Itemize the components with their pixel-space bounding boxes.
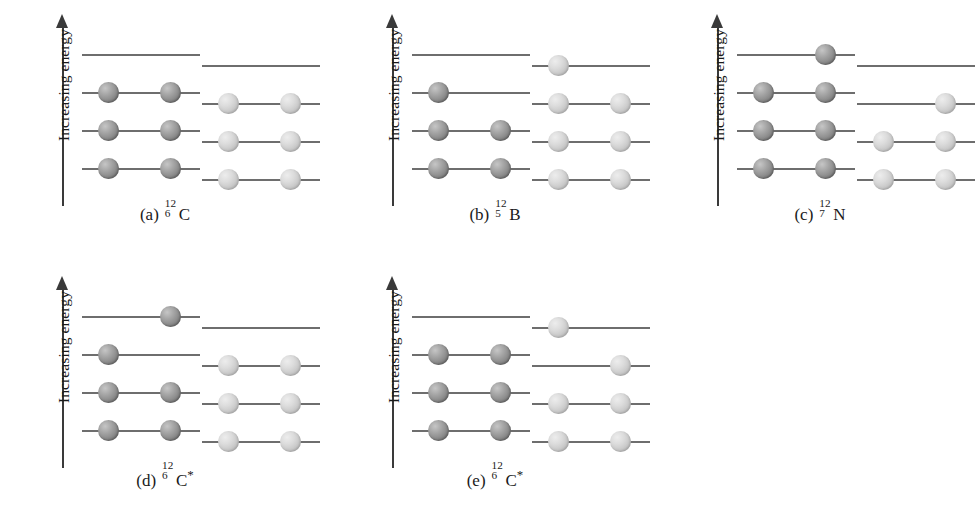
proton-sphere <box>218 393 239 414</box>
proton-sphere <box>610 393 631 414</box>
neutron-sphere <box>98 420 119 441</box>
excited-state-asterisk: * <box>187 467 193 482</box>
proton-sphere <box>280 93 301 114</box>
energy-level-line <box>412 54 530 56</box>
panel-tag: (d) <box>136 471 156 490</box>
proton-level-column <box>532 262 652 462</box>
neutron-sphere <box>428 158 449 179</box>
energy-axis: Increasing energy <box>374 276 400 468</box>
energy-level-line <box>82 54 200 56</box>
neutron-level-column <box>82 0 202 200</box>
axis-label: Increasing energy <box>55 5 73 165</box>
proton-sphere <box>935 93 956 114</box>
element-symbol: C <box>506 471 517 490</box>
proton-sphere <box>548 169 569 190</box>
isotope-notation: 126C <box>165 205 190 225</box>
energy-level-line <box>82 316 200 318</box>
energy-level-line <box>412 316 530 318</box>
proton-sphere <box>935 169 956 190</box>
panel-caption: (b)125B <box>330 205 660 225</box>
proton-sphere <box>873 131 894 152</box>
energy-axis: Increasing energy <box>44 14 70 206</box>
axis-label: Increasing energy <box>55 267 73 427</box>
proton-sphere <box>218 355 239 376</box>
energy-level-line <box>857 65 975 67</box>
energy-axis: Increasing energy <box>699 14 725 206</box>
neutron-sphere <box>98 382 119 403</box>
panel-c-d: Increasing energy(d)126C* <box>0 262 330 518</box>
axis-label: Increasing energy <box>710 5 728 165</box>
proton-sphere <box>610 93 631 114</box>
neutron-sphere <box>160 306 181 327</box>
panel-tag: (b) <box>469 205 489 224</box>
neutron-sphere <box>815 82 836 103</box>
proton-sphere <box>610 355 631 376</box>
neutron-level-column <box>412 0 532 200</box>
atomic-number: 6 <box>162 470 168 481</box>
energy-level-line <box>857 103 975 105</box>
proton-sphere <box>280 431 301 452</box>
isotope-notation: 126C* <box>492 467 524 491</box>
proton-sphere <box>873 169 894 190</box>
neutron-sphere <box>428 420 449 441</box>
neutron-sphere <box>428 120 449 141</box>
neutron-sphere <box>98 158 119 179</box>
neutron-sphere <box>753 82 774 103</box>
neutron-sphere <box>98 344 119 365</box>
proton-sphere <box>280 169 301 190</box>
proton-sphere <box>610 431 631 452</box>
proton-sphere <box>548 431 569 452</box>
neutron-sphere <box>428 382 449 403</box>
neutron-sphere <box>98 82 119 103</box>
neutron-sphere <box>490 158 511 179</box>
element-symbol: N <box>833 205 845 224</box>
proton-level-column <box>202 0 322 200</box>
panel-caption: (e)126C* <box>330 467 660 491</box>
proton-sphere <box>280 393 301 414</box>
neutron-sphere <box>160 420 181 441</box>
neutron-sphere <box>815 44 836 65</box>
proton-sphere <box>610 131 631 152</box>
panel-c-e: Increasing energy(e)126C* <box>330 262 660 518</box>
neutron-sphere <box>160 120 181 141</box>
neutron-sphere <box>815 120 836 141</box>
proton-sphere <box>548 393 569 414</box>
proton-sphere <box>218 169 239 190</box>
panel-b-b: Increasing energy(b)125B <box>330 0 660 258</box>
proton-sphere <box>935 131 956 152</box>
atomic-number: 6 <box>492 470 498 481</box>
neutron-sphere <box>160 82 181 103</box>
axis-label: Increasing energy <box>385 267 403 427</box>
proton-sphere <box>280 355 301 376</box>
proton-sphere <box>548 55 569 76</box>
neutron-sphere <box>753 120 774 141</box>
panel-caption: (d)126C* <box>0 467 330 491</box>
energy-level-line <box>737 54 855 56</box>
axis-label: Increasing energy <box>385 5 403 165</box>
nuclear-energy-level-figure: Increasing energy(a)126CIncreasing energ… <box>0 0 975 518</box>
energy-axis: Increasing energy <box>44 276 70 468</box>
isotope-notation: 126C* <box>162 467 194 491</box>
energy-level-line <box>202 65 320 67</box>
energy-level-line <box>202 327 320 329</box>
isotope-notation: 125B <box>495 205 520 225</box>
proton-sphere <box>610 169 631 190</box>
proton-sphere <box>218 431 239 452</box>
proton-sphere <box>548 93 569 114</box>
neutron-sphere <box>815 158 836 179</box>
neutron-sphere <box>160 382 181 403</box>
atomic-number: 7 <box>819 208 825 219</box>
panel-c-a: Increasing energy(a)126C <box>0 0 330 258</box>
proton-level-column <box>857 0 975 200</box>
neutron-sphere <box>490 420 511 441</box>
element-symbol: B <box>509 205 520 224</box>
neutron-sphere <box>428 82 449 103</box>
neutron-sphere <box>160 158 181 179</box>
proton-sphere <box>218 93 239 114</box>
atomic-number: 6 <box>165 208 171 219</box>
panel-caption: (c)127N <box>655 205 975 225</box>
neutron-sphere <box>428 344 449 365</box>
panel-tag: (a) <box>140 205 159 224</box>
neutron-sphere <box>490 382 511 403</box>
neutron-level-column <box>82 262 202 462</box>
